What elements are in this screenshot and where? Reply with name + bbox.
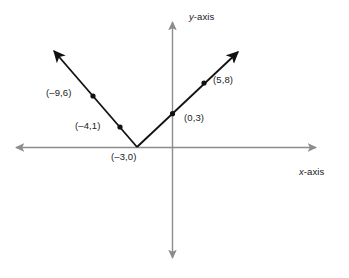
point-marker-0-3 (170, 111, 175, 116)
graph-figure: y-axis x-axis (–9,6) (–4,1) (0,3) (5,8) … (0, 0, 349, 278)
y-axis-label: y-axis (189, 11, 214, 22)
point-label-neg3-0: (–3,0) (111, 151, 136, 162)
point-marker-neg9-6 (90, 93, 95, 98)
graph-left-ray (54, 51, 137, 147)
graph-right-ray (137, 52, 238, 147)
point-label-5-8: (5,8) (213, 74, 233, 85)
point-label-neg4-1: (–4,1) (75, 120, 100, 131)
point-marker-neg4-1 (117, 124, 122, 129)
y-axis-label-suffix: -axis (194, 11, 215, 22)
point-label-neg9-6: (–9,6) (46, 87, 71, 98)
point-marker-5-8 (201, 80, 206, 85)
x-axis-label: x-axis (299, 166, 324, 177)
coordinate-plane-svg (0, 0, 349, 278)
x-axis-label-suffix: -axis (304, 166, 325, 177)
point-label-0-3: (0,3) (184, 112, 204, 123)
